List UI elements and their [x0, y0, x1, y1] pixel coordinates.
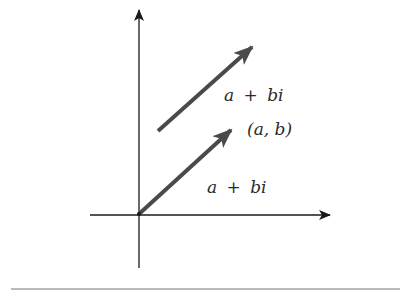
point-label: (a, b) [247, 119, 292, 139]
lower-vector-label: a + bi [207, 177, 267, 197]
origin-point [137, 212, 141, 216]
label-plus-sign: + [227, 177, 241, 197]
position-vector-arrow [139, 130, 231, 214]
label-real-part: a [207, 177, 217, 197]
label-imaginary-part: bi [267, 85, 283, 105]
label-plus-sign: + [244, 85, 258, 105]
label-real-part: a [224, 85, 234, 105]
complex-plane-diagram: a + bi (a, b) a + bi [0, 0, 410, 299]
upper-vector-label: a + bi [224, 85, 284, 105]
label-imaginary-part: bi [250, 177, 266, 197]
